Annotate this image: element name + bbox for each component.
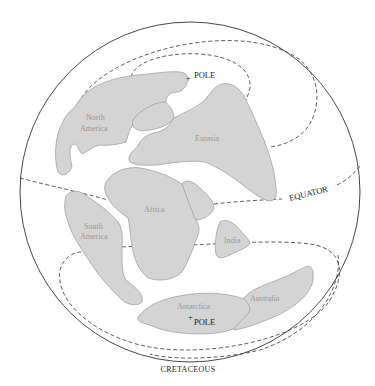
south-pole-cross-icon: + <box>188 312 193 322</box>
label-australia: Australia <box>250 294 280 303</box>
label-south-pole: POLE <box>194 317 215 327</box>
north-pole-cross-icon: + <box>186 73 191 83</box>
label-south-america-line2: America <box>80 232 108 241</box>
label-equator: EQUATOR <box>288 184 329 203</box>
label-antarctica: Antarctica <box>177 302 211 311</box>
label-africa: Africa <box>144 205 165 214</box>
diagram-caption: CRETACEOUS <box>161 365 216 374</box>
equator-line <box>20 178 108 200</box>
equator-line-east <box>337 166 360 185</box>
label-north-america-line2: America <box>80 124 108 133</box>
label-north-america-line1: North <box>86 113 105 122</box>
label-south-america-line1: South <box>84 222 103 231</box>
cretaceous-globe-diagram: North America Eurasia Africa South Ameri… <box>0 0 375 386</box>
label-north-pole: POLE <box>194 70 215 80</box>
label-india: India <box>224 236 241 245</box>
label-eurasia: Eurasia <box>195 134 219 143</box>
continent-antarctica <box>138 293 251 334</box>
